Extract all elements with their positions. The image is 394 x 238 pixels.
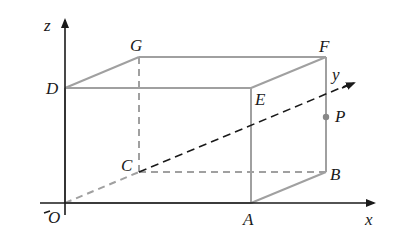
edge-OC	[65, 172, 139, 203]
z-axis-label: z	[44, 17, 51, 34]
vertex-F-label: F	[319, 38, 329, 55]
vertex-C-label: C	[121, 157, 132, 174]
x-axis-label: x	[365, 211, 373, 228]
hidden-edges	[65, 57, 326, 203]
vertex-G-label: G	[130, 37, 142, 54]
vertex-B-label: B	[330, 166, 340, 183]
y-axis-dashed	[139, 84, 350, 172]
edge-EF	[251, 57, 326, 88]
edge-DG	[65, 57, 139, 88]
y-axis-arrow	[342, 83, 354, 88]
origin-O-label: O	[48, 209, 60, 226]
point-P-dot	[323, 114, 329, 120]
vertex-E-label: E	[255, 91, 265, 108]
vertex-A-label: A	[243, 211, 253, 228]
visible-edges	[65, 57, 326, 203]
diagram-canvas: z G F y D E P C B O A x	[0, 0, 394, 238]
edge-AB	[251, 172, 326, 203]
point-P-label: P	[335, 108, 345, 125]
vertex-D-label: D	[46, 80, 58, 97]
y-axis-label: y	[332, 66, 340, 83]
